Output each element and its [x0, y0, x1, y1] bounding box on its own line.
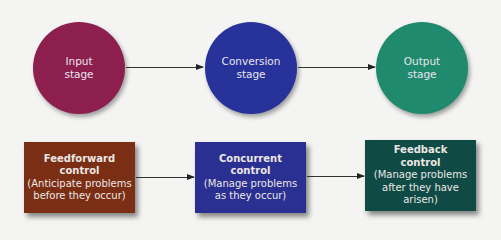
feedback-desc-2: after they have arisen) [365, 182, 476, 207]
feedforward-title-1: Feedforward [44, 153, 115, 166]
concurrent-title-1: Concurrent [219, 153, 282, 166]
concurrent-control-box: Concurrent control (Manage problems as t… [195, 142, 306, 213]
concurrent-desc-1: (Manage problems [204, 178, 297, 191]
conversion-stage-node: Conversionstage [205, 22, 297, 114]
input-stage-node: Inputstage [33, 22, 125, 114]
feedback-control-box: Feedback control (Manage problems after … [365, 140, 476, 211]
feedback-desc-1: (Manage problems [374, 169, 467, 182]
output-stage-label-1: Output [404, 55, 440, 67]
feedforward-desc-2: before they occur) [33, 190, 125, 203]
feedforward-title-2: control [60, 165, 100, 178]
feedback-title-1: Feedback [394, 144, 448, 157]
feedback-title-2: control [401, 157, 441, 170]
feedforward-control-box: Feedforward control (Anticipate problems… [24, 142, 135, 213]
arrow-concurrent-to-feedback [307, 176, 364, 177]
output-stage-label-2: stage [407, 68, 436, 80]
arrow-input-to-conversion [126, 67, 203, 68]
conversion-stage-label-2: stage [236, 68, 265, 80]
feedforward-desc-1: (Anticipate problems [27, 178, 131, 191]
input-stage-label-1: Input [65, 55, 92, 67]
arrow-feedforward-to-concurrent [136, 177, 194, 178]
input-stage-label-2: stage [64, 68, 93, 80]
concurrent-desc-2: as they occur) [215, 190, 287, 203]
arrow-conversion-to-output [298, 67, 375, 68]
output-stage-node: Outputstage [376, 22, 468, 114]
conversion-stage-label-1: Conversion [222, 55, 281, 67]
concurrent-title-2: control [231, 165, 271, 178]
